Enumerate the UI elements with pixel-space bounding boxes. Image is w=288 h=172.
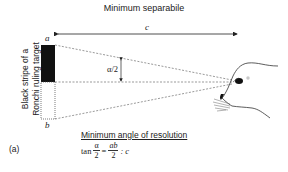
resolution-formula: tan α 2 = ab 2 : c — [81, 141, 129, 160]
black-stripe — [41, 45, 55, 82]
frac-num: α — [93, 141, 99, 151]
face-profile — [222, 63, 278, 118]
distance-label: c — [145, 22, 149, 32]
label-a: a — [45, 33, 50, 43]
angle-label: α/2 — [107, 64, 118, 74]
tan-text: tan — [81, 146, 91, 156]
eye-icon — [235, 78, 243, 84]
ab-over-two: ab 2 — [108, 141, 118, 160]
side-caption: Black stripe of a Ronchi ruling target — [20, 24, 42, 134]
label-b: b — [45, 120, 50, 130]
frac-den: 2 — [111, 151, 115, 160]
eyelash-lines — [213, 99, 230, 111]
lower-ray — [55, 84, 232, 119]
frac-num: ab — [108, 141, 118, 151]
alpha-over-two: α 2 — [93, 141, 99, 160]
panel-label: (a) — [9, 144, 19, 154]
resolution-title: Minimum angle of resolution — [81, 130, 187, 140]
side-caption-line2: Ronchi ruling target — [31, 24, 42, 134]
geometry-diagram — [0, 0, 288, 172]
ratio-text: : c — [120, 146, 129, 156]
dotted-stripe — [41, 82, 55, 119]
upper-ray — [55, 45, 232, 80]
frac-den: 2 — [94, 151, 98, 160]
side-caption-line1: Black stripe of a — [20, 24, 31, 134]
equals-sign: = — [102, 146, 107, 156]
